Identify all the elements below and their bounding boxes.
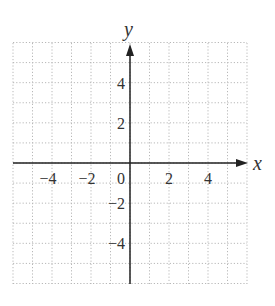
x-tick-label: 0 (117, 170, 125, 187)
x-tick-label: 4 (204, 170, 212, 187)
y-axis-arrow-icon (126, 44, 134, 56)
axes (13, 44, 248, 284)
x-tick-label: −4 (39, 170, 56, 187)
x-axis-label: x (252, 152, 262, 174)
y-tick-label: −4 (108, 235, 125, 252)
x-tick-labels: −4−2024 (39, 170, 212, 187)
y-tick-label: −2 (108, 195, 125, 212)
coordinate-plane: x y −4−2024 42−2−4 (0, 0, 275, 306)
x-tick-label: 2 (165, 170, 173, 187)
y-tick-label: 2 (117, 115, 125, 132)
x-tick-label: −2 (78, 170, 95, 187)
x-axis-arrow-icon (236, 159, 248, 167)
y-axis-label: y (122, 18, 133, 41)
y-tick-label: 4 (117, 75, 125, 92)
